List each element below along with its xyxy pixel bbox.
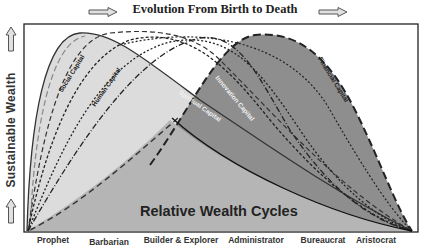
stage-label-builder: Builder & Explorer [144, 235, 219, 245]
stage-label-administrator: Administrator [228, 235, 284, 245]
diagram-caption: Relative Wealth Cycles [140, 203, 298, 219]
stage-label-aristocrat: Aristocrat [356, 235, 396, 245]
stage-label-barbarian: Barbarian [89, 237, 129, 247]
stage-label-prophet: Prophet [37, 235, 69, 245]
stage-label-bureaucrat: Bureaucrat [301, 235, 346, 245]
